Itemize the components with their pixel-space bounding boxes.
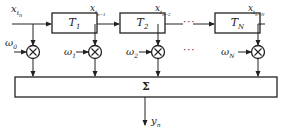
tap-label-n: xtn−N — [248, 3, 265, 17]
weight-label-n: ωN — [221, 46, 234, 59]
tap-label-1: xtn−1 — [90, 3, 106, 17]
ellipsis-bottom: ··· — [183, 44, 196, 55]
tap-label-2: xtn−2 — [155, 3, 171, 17]
weight-label-2: ω2 — [126, 46, 138, 59]
multiplier-n — [252, 46, 265, 59]
ellipsis-top: ··· — [183, 16, 196, 27]
multiplier-2 — [152, 46, 165, 59]
multiplier-1 — [89, 46, 102, 59]
delay-label-t2: T2 — [120, 14, 165, 36]
sum-inputs — [33, 59, 258, 76]
multiplier-0 — [27, 46, 40, 59]
delay-label-tn: TN — [215, 14, 260, 36]
output-label: yn — [151, 115, 161, 128]
summer-symbol: Σ — [15, 78, 277, 96]
weight-label-0: ω0 — [5, 37, 17, 50]
weight-label-1: ω1 — [64, 46, 76, 59]
delay-label-t1: T1 — [52, 14, 97, 36]
input-label: xtn — [11, 3, 22, 18]
